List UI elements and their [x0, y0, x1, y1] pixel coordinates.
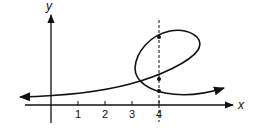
- x-axis-label: x: [237, 98, 245, 112]
- x-tick-label-1: 1: [75, 108, 81, 120]
- x-tick-label-3: 3: [129, 108, 135, 120]
- point-lower: [157, 89, 161, 93]
- x-tick-label-4: 4: [156, 108, 162, 120]
- point-middle: [157, 77, 161, 81]
- y-axis-label: y: [45, 0, 53, 13]
- x-tick-label-2: 2: [102, 108, 108, 120]
- chart: 1 2 3 4 x y: [0, 0, 253, 133]
- point-upper: [157, 35, 161, 39]
